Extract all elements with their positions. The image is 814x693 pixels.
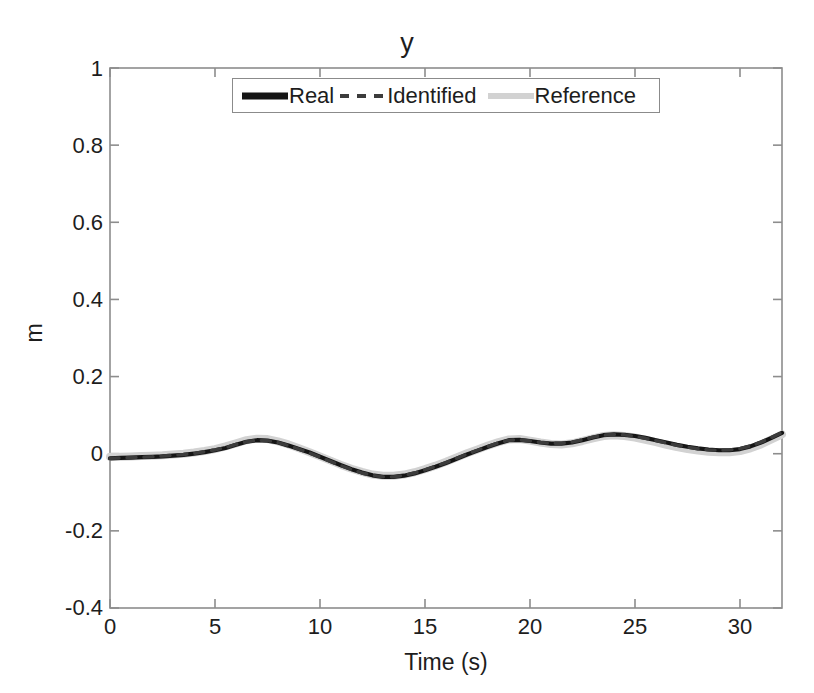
legend-swatch-real-icon bbox=[242, 85, 288, 107]
x-tick-label-group: 0 5 10 15 20 25 30 bbox=[0, 616, 814, 648]
legend-label-identified: Identified bbox=[386, 85, 478, 107]
y-tick-label: 0.2 bbox=[7, 366, 103, 388]
data-series-group bbox=[110, 433, 782, 477]
x-tick-label: 30 bbox=[700, 616, 780, 638]
legend-entry-reference: Reference bbox=[488, 79, 639, 112]
legend-label-reference: Reference bbox=[534, 85, 639, 107]
x-tick-label: 10 bbox=[280, 616, 360, 638]
axes-frame bbox=[110, 68, 782, 608]
y-tick-label: 0 bbox=[7, 443, 103, 465]
x-tick-label: 0 bbox=[70, 616, 150, 638]
figure-canvas: y m 1 0.8 0.6 0.4 0.2 0 -0.2 -0.4 0 5 10… bbox=[0, 0, 814, 693]
x-tick-label: 20 bbox=[490, 616, 570, 638]
y-tick-label: 1 bbox=[7, 58, 103, 80]
x-axis-label: Time (s) bbox=[110, 648, 782, 676]
legend-label-real: Real bbox=[288, 85, 336, 107]
x-tick-label: 15 bbox=[385, 616, 465, 638]
series-line-identified bbox=[110, 433, 782, 477]
axis-ticks bbox=[110, 68, 782, 608]
legend-swatch-identified-icon bbox=[340, 85, 386, 107]
legend-entry-real: Real bbox=[242, 79, 336, 112]
series-line-real bbox=[110, 433, 782, 477]
y-tick-label: 0.8 bbox=[7, 135, 103, 157]
x-tick-label: 25 bbox=[595, 616, 675, 638]
y-tick-label: -0.2 bbox=[7, 520, 103, 542]
y-tick-label: 0.4 bbox=[7, 289, 103, 311]
legend-entry-identified: Identified bbox=[340, 79, 478, 112]
y-tick-label: 0.6 bbox=[7, 212, 103, 234]
x-tick-label: 5 bbox=[175, 616, 255, 638]
legend-swatch-reference-icon bbox=[488, 85, 534, 107]
y-tick-label-group: 1 0.8 0.6 0.4 0.2 0 -0.2 -0.4 bbox=[0, 0, 103, 693]
series-line-reference bbox=[110, 434, 782, 475]
legend: Real Identified Reference bbox=[232, 78, 660, 113]
